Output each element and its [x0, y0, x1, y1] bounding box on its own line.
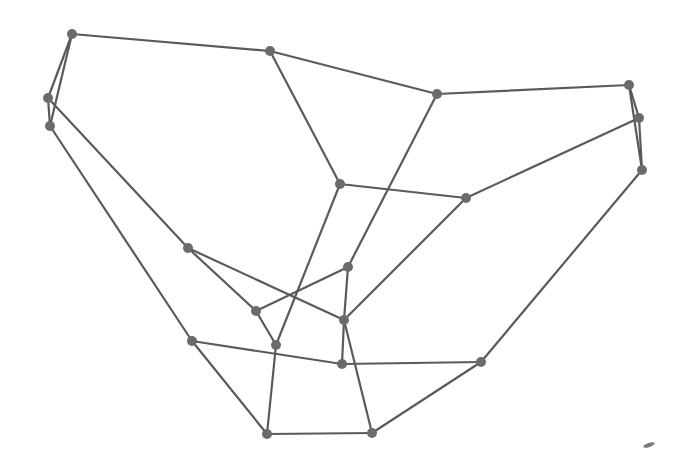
graph-edge: [50, 126, 192, 341]
graph-edge: [48, 98, 188, 248]
graph-node: [251, 306, 261, 316]
graph-edge: [192, 341, 267, 434]
graph-edge: [437, 85, 629, 94]
graph-node: [637, 165, 647, 175]
graph-node: [461, 193, 471, 203]
graph-node: [624, 80, 634, 90]
graph-edge: [270, 51, 437, 94]
graph-node: [67, 29, 77, 39]
graph-edge: [267, 433, 372, 434]
graph-nodes: [43, 29, 647, 439]
graph-edge: [344, 198, 466, 320]
graph-node: [339, 315, 349, 325]
graph-edge: [276, 184, 340, 345]
graph-node: [262, 429, 272, 439]
graph-edge: [481, 170, 642, 362]
graph-node: [265, 46, 275, 56]
graph-edge: [344, 267, 348, 320]
graph-edge: [372, 362, 481, 433]
graph-node: [367, 428, 377, 438]
graph-node: [271, 340, 281, 350]
graph-edge: [188, 248, 344, 320]
graph-node: [343, 262, 353, 272]
graph-edge: [342, 362, 481, 364]
ink-smudge: [643, 441, 656, 449]
graph-edge: [340, 184, 466, 198]
graph-edge: [72, 34, 270, 51]
graph-edge: [639, 118, 642, 170]
graph-node: [187, 336, 197, 346]
graph-edge: [267, 345, 276, 434]
scan-artifact: [643, 441, 656, 449]
graph-node: [476, 357, 486, 367]
graph-node: [634, 113, 644, 123]
graph-edges: [48, 34, 642, 434]
graph-edge: [188, 248, 256, 311]
graph-edge: [342, 320, 344, 364]
graph-edge: [466, 118, 639, 198]
graph-node: [432, 89, 442, 99]
graph-edge: [256, 311, 276, 345]
graph-node: [335, 179, 345, 189]
graph-diagram: [0, 0, 682, 469]
graph-edge: [344, 320, 372, 433]
graph-node: [43, 93, 53, 103]
graph-node: [337, 359, 347, 369]
graph-edge: [192, 341, 342, 364]
graph-node: [183, 243, 193, 253]
graph-edge: [270, 51, 340, 184]
graph-edge: [256, 267, 348, 311]
graph-node: [45, 121, 55, 131]
